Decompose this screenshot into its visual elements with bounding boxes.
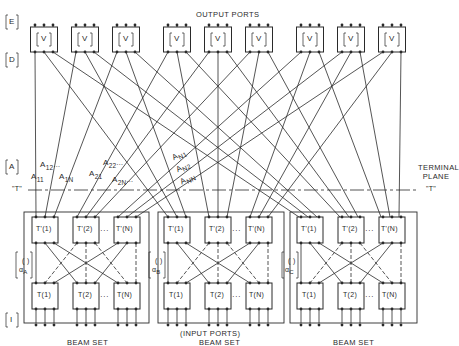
terminal-plane-line2: PLANE bbox=[418, 172, 454, 181]
t-prime-box-label: T'(1) bbox=[168, 225, 184, 232]
v-box-label: V bbox=[82, 34, 88, 43]
alpha-symbol: αA bbox=[19, 265, 30, 277]
alpha-paren: ( ) bbox=[19, 256, 30, 265]
ellipsis: ··· bbox=[232, 226, 241, 235]
t-prime-box-label: T'(2) bbox=[77, 225, 93, 232]
terminal-left-label: "T" bbox=[12, 185, 22, 192]
alpha-paren: ( ) bbox=[152, 256, 163, 265]
t-prime-box-label: T'(N) bbox=[381, 225, 398, 232]
t-prime-box-label: T'(1) bbox=[301, 225, 317, 232]
alpha-label-c: ( ) αC bbox=[285, 256, 296, 277]
ellipsis: ··· bbox=[100, 226, 109, 235]
v-box-label: V bbox=[123, 34, 129, 43]
terminal-plane-line1: TERMINAL bbox=[418, 163, 454, 172]
t-box-label: T(2) bbox=[343, 291, 357, 298]
row-label-d: D bbox=[9, 55, 15, 64]
row-label-i: I bbox=[10, 315, 13, 324]
v-box-label: V bbox=[174, 34, 180, 43]
row-label-e: E bbox=[9, 17, 15, 26]
row-label-a: A bbox=[9, 162, 15, 171]
coupling-a1n: A1N bbox=[59, 172, 74, 183]
output-ports-label: OUTPUT PORTS bbox=[196, 10, 259, 19]
coupling-a11: A11 bbox=[31, 172, 44, 183]
row-brackets bbox=[6, 15, 298, 327]
t-prime-box-label: T'(N) bbox=[116, 225, 133, 232]
terminal-right-label: "T" bbox=[426, 185, 436, 192]
t-box-label: T(1) bbox=[302, 291, 316, 298]
ellipsis: ··· bbox=[365, 226, 374, 235]
alpha-symbol: αC bbox=[285, 265, 296, 277]
t-prime-box-label: T'(2) bbox=[342, 225, 358, 232]
v-box-label: V bbox=[41, 34, 47, 43]
ellipsis: ··· bbox=[100, 292, 109, 301]
t-box-label: T(N) bbox=[117, 291, 132, 298]
t-prime-box-label: T'(2) bbox=[209, 225, 225, 232]
alpha-label-a: ( ) αA bbox=[19, 256, 30, 277]
beam-set-label-c: BEAM SET bbox=[333, 338, 374, 346]
t-box-label: T(2) bbox=[210, 291, 224, 298]
v-box-label: V bbox=[256, 34, 262, 43]
coupling-a22: A22... bbox=[103, 158, 123, 169]
alpha-label-b: ( ) αB bbox=[152, 256, 163, 277]
t-prime-box-label: T'(1) bbox=[36, 225, 52, 232]
alpha-paren: ( ) bbox=[285, 256, 296, 265]
interconnect-lines bbox=[35, 52, 401, 217]
t-prime-box-label: T'(N) bbox=[248, 225, 265, 232]
input-port-stubs bbox=[36, 309, 401, 323]
beam-set-label-a: BEAM SET bbox=[67, 338, 108, 346]
inner-connections bbox=[36, 243, 401, 283]
input-port-dots bbox=[35, 324, 403, 327]
t-box-label: T(1) bbox=[37, 291, 51, 298]
t-box-label: T(2) bbox=[78, 291, 92, 298]
t-box-label: T(1) bbox=[169, 291, 183, 298]
terminal-plane-label: TERMINAL PLANE bbox=[418, 163, 454, 181]
ellipsis: ··· bbox=[365, 292, 374, 301]
beam-set-label-b: BEAM SET bbox=[199, 338, 240, 346]
coupling-a2n: A2N... bbox=[112, 175, 133, 186]
alpha-symbol: αB bbox=[152, 265, 163, 277]
v-box-label: V bbox=[215, 34, 221, 43]
t-box-label: T(N) bbox=[382, 291, 397, 298]
v-box-label: V bbox=[348, 34, 354, 43]
coupling-a21: A21 bbox=[89, 169, 102, 180]
v-box-label: V bbox=[389, 34, 395, 43]
ellipsis: ··· bbox=[232, 292, 241, 301]
t-box-label: T(N) bbox=[249, 291, 264, 298]
input-ports-label: (INPUT PORTS) bbox=[180, 329, 240, 338]
v-box-label: V bbox=[307, 34, 313, 43]
coupling-a12: A12... bbox=[40, 160, 60, 171]
